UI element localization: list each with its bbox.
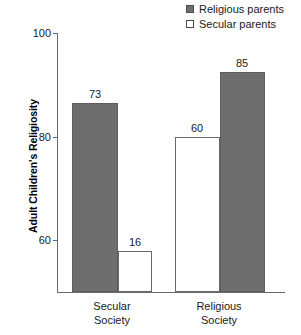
y-tick-label-60: 60 (39, 234, 51, 246)
bar-value-73: 73 (89, 88, 101, 100)
y-tick-mark-80 (53, 137, 58, 138)
x-tick-label-secular-society-line2: Society (93, 313, 130, 327)
x-tick-label-religious-society-line2: Society (196, 313, 241, 327)
legend-label-religious-parents: Religious parents (199, 3, 284, 15)
y-tick-label-100: 100 (33, 27, 51, 39)
legend-swatch-hollow-icon (186, 20, 194, 28)
bar-value-85: 85 (236, 57, 248, 69)
bar-chart-figure: Religious parents Secular parents Adult … (0, 0, 301, 335)
x-tick-label-secular-society: Secular Society (93, 299, 130, 327)
bar-secular-society-religious-parents[interactable] (72, 103, 118, 292)
legend-item-secular-parents: Secular parents (186, 17, 301, 31)
bar-value-60: 60 (191, 122, 203, 134)
x-tick-label-religious-society: Religious Society (196, 299, 241, 327)
x-tick-label-secular-society-line1: Secular (93, 299, 130, 313)
bar-secular-society-secular-parents[interactable] (118, 251, 152, 292)
legend-item-religious-parents: Religious parents (186, 2, 301, 16)
legend-swatch-filled-icon (186, 5, 194, 13)
y-tick-mark-100 (53, 33, 58, 34)
plot-area: 100 80 60 40 20 73 16 60 85 (57, 33, 285, 292)
legend-label-secular-parents: Secular parents (199, 18, 276, 30)
y-axis-line (57, 33, 58, 292)
bar-religious-society-religious-parents[interactable] (220, 72, 265, 292)
y-axis-title: Adult Children's Religiosity (27, 71, 39, 261)
x-axis-line (57, 292, 285, 293)
bar-religious-society-secular-parents[interactable] (175, 137, 220, 292)
y-tick-label-80: 80 (39, 131, 51, 143)
y-tick-mark-60 (53, 240, 58, 241)
bar-value-16: 16 (129, 236, 141, 248)
x-tick-label-religious-society-line1: Religious (196, 299, 241, 313)
chart-legend: Religious parents Secular parents (186, 2, 301, 32)
